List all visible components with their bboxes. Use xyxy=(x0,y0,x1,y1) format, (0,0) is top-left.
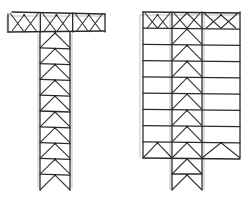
chevron-brace xyxy=(40,49,55,64)
chevron-brace xyxy=(143,143,158,158)
chevron-brace xyxy=(202,143,221,158)
chevron-brace xyxy=(55,33,70,48)
chevron-brace xyxy=(55,96,70,111)
chevron-brace xyxy=(40,80,55,95)
joint-node xyxy=(55,14,57,16)
chevron-brace xyxy=(55,159,70,174)
chevron-brace xyxy=(187,29,202,44)
chevron-brace xyxy=(55,175,70,190)
chevron-brace xyxy=(172,45,187,60)
joint-node xyxy=(186,77,188,79)
chevron-brace xyxy=(187,159,202,174)
joint-node xyxy=(186,109,188,111)
chevron-brace xyxy=(55,65,70,80)
floor-beam xyxy=(143,158,240,159)
chevron-brace xyxy=(40,175,55,190)
joint-node xyxy=(54,127,56,129)
chevron-brace xyxy=(172,159,187,174)
chevron-brace xyxy=(172,175,187,190)
chevron-brace xyxy=(172,110,187,125)
joint-node xyxy=(156,14,158,16)
joint-node xyxy=(23,14,25,16)
rectangular-frame-with-core xyxy=(140,12,240,190)
joint-node xyxy=(186,174,188,176)
joint-node xyxy=(186,125,188,127)
joint-node xyxy=(54,32,56,34)
floor-beam xyxy=(143,93,240,94)
chevron-brace xyxy=(40,112,55,127)
chevron-brace xyxy=(187,110,202,125)
chevron-brace xyxy=(55,144,70,159)
joint-node xyxy=(54,64,56,66)
joint-node xyxy=(54,79,56,81)
chevron-brace xyxy=(55,112,70,127)
joint-node xyxy=(186,158,188,160)
joint-node xyxy=(186,93,188,95)
joint-node xyxy=(54,158,56,160)
chevron-brace xyxy=(187,94,202,109)
chevron-brace xyxy=(40,65,55,80)
chevron-brace xyxy=(172,127,187,142)
t-shaped-truss xyxy=(7,12,106,190)
floor-beam xyxy=(143,44,240,45)
floor-beam xyxy=(143,109,240,110)
chevron-brace xyxy=(55,49,70,64)
joint-node xyxy=(186,61,188,63)
floor-beam xyxy=(143,12,240,13)
top-chord xyxy=(12,12,105,14)
joint-node xyxy=(156,142,158,144)
chevron-brace xyxy=(40,96,55,111)
chevron-brace xyxy=(187,175,202,190)
floor-beam xyxy=(143,77,240,78)
chevron-brace xyxy=(40,144,55,159)
chevron-brace xyxy=(172,29,187,44)
chevron-brace xyxy=(40,33,55,48)
joint-node xyxy=(88,14,90,16)
joint-node xyxy=(186,142,188,144)
chevron-brace xyxy=(172,78,187,93)
chevron-brace xyxy=(187,62,202,77)
floor-beam xyxy=(143,28,240,29)
joint-node xyxy=(186,28,188,30)
chevron-brace xyxy=(187,78,202,93)
joint-node xyxy=(54,174,56,176)
joint-node xyxy=(54,95,56,97)
joint-node xyxy=(54,143,56,145)
joint-node xyxy=(220,14,222,16)
chevron-brace xyxy=(172,143,187,158)
floor-beam xyxy=(143,61,240,62)
joint-node xyxy=(220,142,222,144)
truss-diagram xyxy=(0,0,241,201)
chevron-brace xyxy=(172,94,187,109)
chevron-brace xyxy=(40,128,55,143)
joint-node xyxy=(54,48,56,50)
joint-node xyxy=(186,12,188,14)
chevron-brace xyxy=(187,127,202,142)
chevron-brace xyxy=(40,159,55,174)
chevron-brace xyxy=(172,62,187,77)
chevron-brace xyxy=(187,143,202,158)
chevron-brace xyxy=(187,45,202,60)
chevron-brace xyxy=(55,80,70,95)
chevron-brace xyxy=(55,128,70,143)
joint-node xyxy=(54,111,56,113)
floor-beam xyxy=(143,126,240,127)
chevron-brace xyxy=(221,143,240,158)
joint-node xyxy=(186,44,188,46)
